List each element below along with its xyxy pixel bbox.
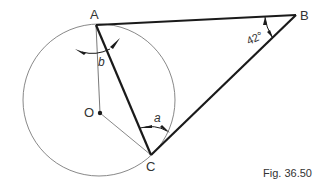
center-point-O (98, 111, 102, 115)
angle-a-arrow-left (141, 125, 152, 128)
radius-OC (100, 113, 151, 155)
angle-label-b: b (98, 55, 105, 69)
angle-B-arrow-top (263, 17, 267, 25)
label-B: B (300, 8, 309, 23)
label-A: A (90, 7, 99, 22)
angle-label-42: 42° (244, 29, 264, 47)
angle-B-arrow-bottom (267, 30, 273, 38)
figure-caption: Fig. 36.50 (263, 167, 312, 179)
side-AC (96, 25, 151, 155)
geometry-diagram: A B C O b a 42° Fig. 36.50 (0, 0, 329, 189)
angle-label-a: a (154, 111, 161, 125)
angle-a-arrow-right (160, 125, 170, 133)
angle-b-arrow-left (75, 49, 86, 55)
radius-AO (96, 25, 100, 113)
angle-b-arrow-right (110, 38, 120, 49)
label-C: C (146, 159, 155, 174)
side-BC (151, 15, 296, 155)
label-O: O (84, 105, 94, 120)
